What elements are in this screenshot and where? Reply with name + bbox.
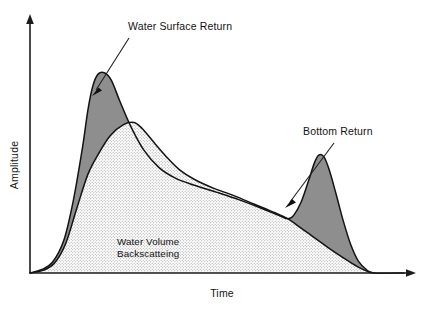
region-label-water-volume-backscattering: Water Volume Backscatteing (117, 236, 180, 259)
lidar-waveform-chart: Amplitude Time Water Surface Return Bott… (0, 0, 432, 309)
amplitude-axis-label: Amplitude (8, 141, 20, 190)
waveform-figure: Amplitude Time Water Surface Return Bott… (0, 0, 432, 309)
amplitude-axis-arrow-icon (26, 14, 34, 24)
bottom-return-label: Bottom Return (303, 125, 373, 137)
bottom-return-arrow-icon (285, 199, 296, 208)
time-axis-label: Time (210, 287, 234, 299)
water-volume-label-line2: Backscatteing (117, 248, 179, 259)
water-surface-return-label: Water Surface Return (128, 20, 232, 32)
water-volume-label-line1: Water Volume (117, 236, 180, 247)
time-axis-arrow-icon (406, 269, 416, 277)
